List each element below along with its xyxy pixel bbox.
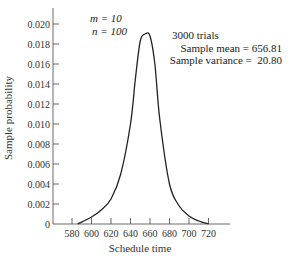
- y-tick-label: 0.016: [28, 59, 51, 70]
- annotation-n: n = 100: [92, 25, 127, 37]
- y-tick-label: 0: [45, 219, 50, 230]
- annotation-mean: Sample mean = 656.81: [180, 42, 282, 54]
- y-tick-label: 0.018: [28, 39, 51, 50]
- x-tick-label: 660: [143, 228, 158, 239]
- x-axis-title: Schedule time: [109, 242, 172, 254]
- y-axis-ticks: 00.0020.0040.0060.0080.0100.0120.0140.01…: [28, 19, 60, 230]
- x-tick-label: 580: [65, 228, 80, 239]
- y-tick-label: 0.014: [28, 79, 51, 90]
- x-tick-label: 680: [162, 228, 177, 239]
- x-tick-label: 600: [84, 228, 99, 239]
- annotation-variance: Sample variance = 20.80: [170, 54, 283, 66]
- y-tick-label: 0.008: [28, 139, 51, 150]
- x-axis-ticks: 580600620640660680700720: [65, 218, 217, 239]
- y-tick-label: 0.020: [28, 19, 51, 30]
- y-tick-label: 0.012: [28, 99, 51, 110]
- x-tick-label: 620: [104, 228, 119, 239]
- y-tick-label: 0.010: [28, 119, 51, 130]
- y-axis-title: Sample probability: [2, 75, 14, 160]
- y-tick-label: 0.004: [28, 179, 51, 190]
- x-tick-label: 640: [123, 228, 138, 239]
- annotation-m: m = 10: [90, 12, 122, 24]
- y-tick-label: 0.002: [28, 199, 51, 210]
- y-tick-label: 0.006: [28, 159, 51, 170]
- probability-chart: 00.0020.0040.0060.0080.0100.0120.0140.01…: [0, 0, 290, 258]
- x-tick-label: 700: [182, 228, 197, 239]
- annotation-trials: 3000 trials: [172, 29, 219, 41]
- x-tick-label: 720: [201, 228, 216, 239]
